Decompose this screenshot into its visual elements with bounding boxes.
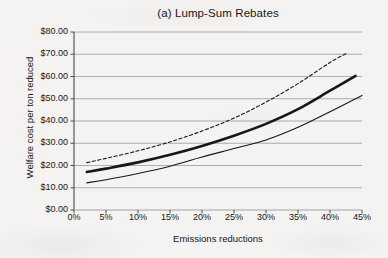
tick-mark-group bbox=[71, 32, 363, 214]
plot-area bbox=[0, 0, 388, 258]
gridline-group bbox=[74, 32, 362, 188]
series-line-upper-dashed bbox=[87, 54, 346, 163]
chart-figure: (a) Lump-Sum Rebates Welfare cost per to… bbox=[0, 0, 388, 258]
data-series-group bbox=[87, 54, 362, 183]
